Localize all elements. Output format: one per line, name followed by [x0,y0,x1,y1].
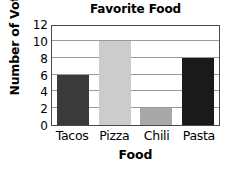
x-axis-tick-labels: TacosPizzaChiliPasta [51,128,220,143]
bar-slot [94,26,136,125]
y-axis-tick-label: 10 [28,36,48,48]
bar-chart-figure: Favorite Food Number of Votes 024681012 … [0,0,231,171]
bar-slot [52,26,94,125]
plot-area [51,25,220,126]
y-axis-tick-label: 12 [28,19,48,31]
y-axis-title: Number of Votes [7,0,22,96]
y-axis-tick-label: 2 [28,103,48,115]
x-axis-tick-label-pizza: Pizza [93,128,135,143]
bar-slot [136,26,178,125]
y-axis-title-container: Number of Votes [4,0,24,94]
x-axis-tick-label-chili: Chili [136,128,178,143]
bar-tacos [57,75,89,126]
bar-pizza [99,41,131,125]
y-axis-tick-labels: 024681012 [28,25,48,126]
x-axis-title: Food [51,147,220,162]
bar-slot [177,26,219,125]
bar-pasta [182,58,214,125]
x-axis-tick-label-pasta: Pasta [178,128,220,143]
bar-series [52,26,219,125]
bar-chili [140,108,172,125]
y-axis-tick-label: 8 [28,53,48,65]
y-axis-tick-label: 6 [28,70,48,82]
y-axis-tick-label: 4 [28,86,48,98]
chart-title: Favorite Food [51,2,220,16]
x-axis-tick-label-tacos: Tacos [51,128,93,143]
y-axis-tick-label: 0 [28,120,48,132]
